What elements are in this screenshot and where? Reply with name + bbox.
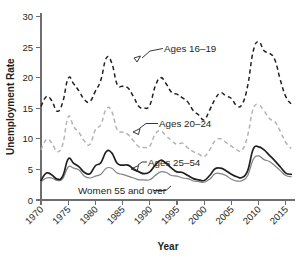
y-tick-label-25: 25 [22,42,33,53]
x-tick-label-1970: 1970 [23,204,46,227]
x-axis-title: Year [157,241,178,252]
x-tick-label-1995: 1995 [159,204,182,227]
chart-plot-area: 30 25 20 15 10 5 0 1970 1975 1980 1985 1… [0,0,308,260]
x-tick-label-2000: 2000 [186,204,209,227]
y-tick-label-15: 15 [22,103,33,114]
x-tick-label-1975: 1975 [50,204,73,227]
series-label-women-55-and-over: Women 55 and over [78,185,167,196]
x-tick-label-2015: 2015 [267,204,290,227]
x-tick-label-2010: 2010 [240,204,263,227]
y-axis-ticks [36,17,41,201]
y-tick-label-30: 30 [22,11,33,22]
series-label-ages-16-19: Ages 16–19 [164,43,216,54]
x-tick-label-1980: 1980 [77,204,100,227]
y-axis-title: Unemployment Rate [5,58,16,155]
x-tick-label-1990: 1990 [131,204,154,227]
unemployment-rate-chart: 30 25 20 15 10 5 0 1970 1975 1980 1985 1… [0,0,308,260]
x-tick-label-1985: 1985 [104,204,127,227]
y-tick-label-20: 20 [22,72,33,83]
series-label-ages-20-24: Ages 20–24 [159,118,212,129]
x-axis-ticks [41,200,286,205]
series-label-ages-25-54: Ages 25–54 [148,157,201,168]
y-tick-label-5: 5 [28,164,33,175]
x-tick-label-2005: 2005 [213,204,236,227]
y-tick-label-10: 10 [22,133,33,144]
y-tick-label-0: 0 [28,195,33,206]
